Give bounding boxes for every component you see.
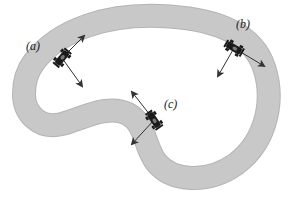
race-track-diagram: (a) (b) (c) — [0, 0, 295, 197]
label-position-b: (b) — [236, 18, 250, 30]
acceleration-arrow-icon — [62, 58, 82, 86]
diagram-canvas — [0, 0, 295, 197]
acceleration-arrow-icon — [218, 48, 234, 76]
label-position-c: (c) — [164, 98, 177, 110]
label-position-a: (a) — [26, 40, 40, 52]
